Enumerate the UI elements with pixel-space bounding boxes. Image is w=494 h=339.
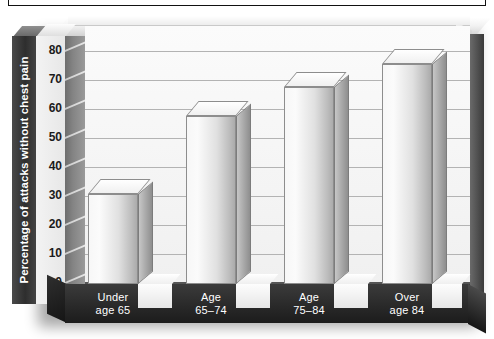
- chart-figure: Percentage of attacks without chest pain…: [0, 0, 494, 339]
- x-category-line: Under: [86, 291, 140, 304]
- x-category-line: Over: [380, 291, 434, 304]
- bar-side-face: [138, 181, 153, 284]
- y-tick-label: 20: [49, 218, 62, 230]
- x-category-line: 65–74: [184, 304, 238, 317]
- y-tick-label: 40: [49, 160, 62, 172]
- bar-front-face: [88, 194, 138, 284]
- bar-front-face: [382, 64, 432, 284]
- bar-side-face: [432, 51, 447, 284]
- bar-front-face: [186, 116, 236, 284]
- chassis-right-edge: [470, 34, 484, 296]
- bar-age-75-84[interactable]: [284, 87, 334, 284]
- y-tick-label: 30: [49, 189, 62, 201]
- x-category-line: age 84: [380, 304, 434, 317]
- y-tick-label: 60: [49, 102, 62, 114]
- bar-pedestal: [138, 284, 172, 308]
- bar-pedestal: [432, 284, 462, 308]
- y-tick-label: 50: [49, 131, 62, 143]
- x-category-label-2: Age 65–74: [184, 291, 238, 317]
- y-axis-title-text: Percentage of attacks without chest pain: [18, 56, 30, 283]
- x-category-line: Age: [184, 291, 238, 304]
- bar-age-65-74[interactable]: [186, 116, 236, 284]
- bar-pedestal: [236, 284, 270, 308]
- x-category-line: age 65: [86, 304, 140, 317]
- y-tick-label: 10: [49, 247, 62, 259]
- chassis-top-cap: [68, 16, 470, 26]
- bar-pedestal: [334, 284, 368, 308]
- x-category-label-3: Age 75–84: [282, 291, 336, 317]
- bar-side-face: [236, 103, 251, 284]
- x-category-label-1: Under age 65: [86, 291, 140, 317]
- bar-side-face: [334, 74, 349, 284]
- bar-over-age-84[interactable]: [382, 64, 432, 284]
- y-tick-column: 80 70 60 50 40 30 20 10 0: [36, 36, 65, 304]
- y-tick-label: 80: [49, 44, 62, 56]
- x-category-line: 75–84: [282, 304, 336, 317]
- bar-front-face: [284, 87, 334, 284]
- x-category-line: Age: [282, 291, 336, 304]
- x-category-label-4: Over age 84: [380, 291, 434, 317]
- bar-under-age-65[interactable]: [88, 194, 138, 284]
- y-axis-title: Percentage of attacks without chest pain: [12, 36, 36, 304]
- y-tick-label: 70: [49, 73, 62, 85]
